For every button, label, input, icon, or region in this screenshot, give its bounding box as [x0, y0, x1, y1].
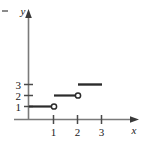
plot-canvas: 3 2 1 1 2 3 y x	[0, 0, 148, 146]
x-tick-label-1: 1	[51, 126, 57, 138]
y-axis-label: y	[20, 5, 26, 17]
x-axis-label: x	[131, 124, 137, 136]
x-axis-arrowhead	[130, 116, 139, 122]
y-tick-label-1: 1	[16, 101, 22, 113]
step-function-figure: 3 2 1 1 2 3 y x	[0, 0, 148, 146]
x-tick-label-3: 3	[99, 126, 105, 138]
y-axis-arrowhead	[25, 9, 32, 18]
x-tick-label-2: 2	[75, 126, 81, 138]
open-point-2-2	[75, 93, 80, 98]
open-point-1-1	[51, 104, 56, 109]
